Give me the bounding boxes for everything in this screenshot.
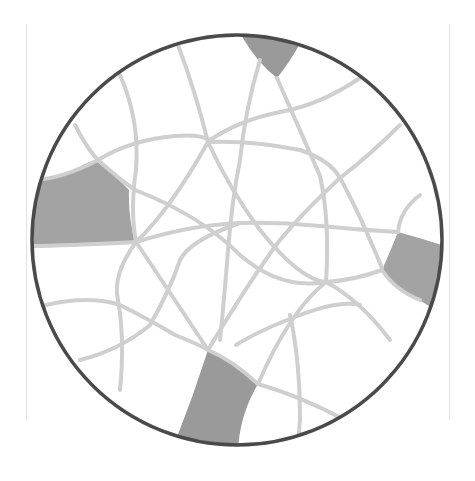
shaded-region-right [382, 232, 445, 316]
circle-network-diagram [0, 0, 475, 481]
shaded-region-bottom [172, 350, 258, 450]
shaded-region-left [30, 160, 135, 246]
